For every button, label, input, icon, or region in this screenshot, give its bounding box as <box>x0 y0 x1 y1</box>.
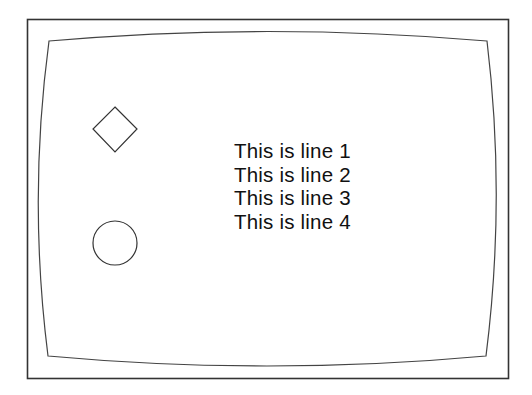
text-line-1: This is line 1 <box>234 139 351 163</box>
text-line-4: This is line 4 <box>234 210 351 234</box>
text-line-3: This is line 3 <box>234 186 351 210</box>
text-block: This is line 1 This is line 2 This is li… <box>234 139 351 233</box>
circle-shape <box>93 221 137 265</box>
diamond-shape <box>93 107 137 152</box>
text-line-2: This is line 2 <box>234 163 351 187</box>
